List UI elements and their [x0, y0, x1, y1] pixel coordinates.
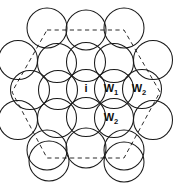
packing-circle-r6c2: [104, 142, 144, 182]
packing-circle-r1c1: [27, 8, 67, 48]
center-ion-label: i: [84, 82, 87, 94]
packing-circle-r4c5: [134, 101, 173, 140]
diagram-canvas: iW1W2W2: [0, 0, 175, 186]
packing-circle-r1c3: [104, 8, 144, 48]
circle-lattice: [0, 8, 173, 182]
packing-circle-r6c1: [29, 141, 69, 181]
packing-circle-r4c1: [0, 101, 38, 140]
packing-circle-r5c2: [66, 128, 106, 168]
hexagonal-packing-diagram: iW1W2W2: [0, 0, 175, 186]
